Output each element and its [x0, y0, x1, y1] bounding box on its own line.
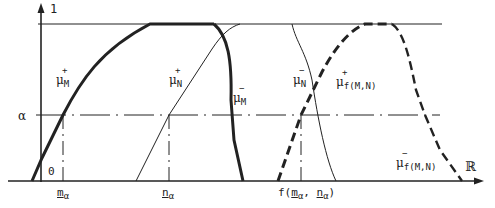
mu-symbol: μ — [233, 91, 241, 105]
sub: M — [64, 79, 69, 89]
label-mu-N-minus: μ−N — [293, 74, 306, 86]
sub: f(M,N) — [344, 81, 377, 91]
mu-symbol: μ — [396, 156, 404, 170]
sub: N — [177, 79, 182, 89]
m-alpha-base: m — [57, 186, 64, 199]
sub: M — [241, 97, 246, 107]
origin-label: 0 — [48, 166, 55, 177]
curve-mu-N-plus — [136, 24, 240, 181]
f-suffix: ) — [329, 186, 336, 199]
alpha-label: α — [18, 110, 26, 122]
label-mu-M-minus: μ−M — [233, 92, 246, 104]
label-mu-f-plus: μ+f(M,N) — [336, 76, 376, 88]
mu-symbol: μ — [169, 73, 177, 87]
sup: + — [175, 66, 180, 75]
x-axis-label: ℝ — [465, 160, 476, 173]
n-alpha-tick: nα — [162, 187, 174, 198]
label-mu-M-plus: μ+M — [56, 74, 69, 86]
curve-mu-f-plus — [278, 24, 392, 181]
sub: f(M,N) — [404, 162, 437, 172]
mu-symbol: μ — [293, 73, 301, 87]
m-alpha-sub: α — [64, 191, 69, 201]
label-mu-f-minus: μ−f(M,N) — [396, 157, 436, 169]
sup: − — [402, 149, 407, 158]
membership-diagram — [0, 0, 495, 208]
sup: − — [299, 66, 304, 75]
f-n-sub: α — [323, 191, 328, 201]
label-mu-N-plus: μ+N — [169, 74, 182, 86]
f-tick: f(mα, nα) — [278, 187, 335, 198]
curve-mu-M-plus — [32, 24, 214, 181]
y-axis-arrow-icon — [38, 3, 45, 13]
x-axis-arrow-icon — [474, 178, 484, 185]
y-top-label: 1 — [50, 3, 57, 15]
sub: N — [301, 79, 306, 89]
f-prefix: f( — [278, 186, 291, 199]
mu-symbol: μ — [56, 73, 64, 87]
f-m: m — [291, 186, 298, 199]
sup: − — [239, 84, 244, 93]
n-alpha-base: n — [162, 186, 169, 199]
sup: + — [342, 68, 347, 77]
n-alpha-sub: α — [169, 191, 174, 201]
sup: + — [62, 66, 67, 75]
f-sep: , — [303, 186, 316, 199]
mu-symbol: μ — [336, 75, 344, 89]
f-m-sub: α — [298, 191, 303, 201]
m-alpha-tick: mα — [57, 187, 69, 198]
curve-mu-N-minus — [292, 24, 336, 181]
